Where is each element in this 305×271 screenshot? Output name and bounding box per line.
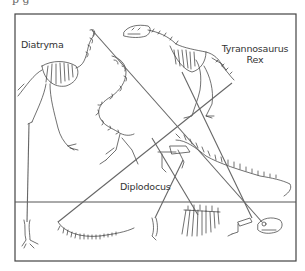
label-rex: Rex xyxy=(215,54,295,65)
cropped-header-text: p g xyxy=(12,0,30,6)
connector-line xyxy=(58,83,232,222)
label-diplodocus: Diplodocus xyxy=(120,181,170,192)
diplodocus-neck-icon xyxy=(96,56,138,164)
label-tyrannosaurus-rex: Tyrannosaurus Rex xyxy=(215,43,295,65)
diplodocus-tail-bone-icon xyxy=(58,222,134,239)
connector-line xyxy=(27,123,29,222)
diagram-canvas: p g xyxy=(0,0,305,271)
label-diatryma: Diatryma xyxy=(21,39,64,50)
connector-line xyxy=(182,72,252,218)
leg-bone-icon xyxy=(152,218,158,240)
skull-bone-icon xyxy=(258,218,282,233)
rib-cage-bone-icon xyxy=(182,205,220,236)
diplodocus-body-tail-icon xyxy=(158,134,291,196)
label-tyrannosaurus: Tyrannosaurus xyxy=(215,43,295,54)
diatryma-foot-bone-icon xyxy=(22,220,38,248)
arm-bone-icon xyxy=(228,218,252,236)
tyrannosaurus-rex-skeleton-icon xyxy=(124,25,234,118)
